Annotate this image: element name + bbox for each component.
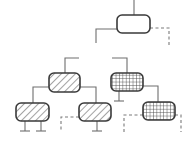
node-left-left [16,103,49,121]
edge-left-leftright [80,87,96,103]
null-link-leftright-left [61,117,79,132]
node-left-right [79,103,111,121]
edge-right-rightright [143,86,158,102]
node-left [49,73,80,92]
node-root [117,15,150,33]
null-link-rightright-right [175,115,181,132]
node-right [111,73,143,91]
terminal-leftleft-2 [36,121,46,131]
edge-root-right [112,58,127,73]
terminal-leftleft-1 [20,121,30,131]
null-link-root-right [150,28,169,45]
tree-diagram [0,0,194,144]
terminal-right [114,91,124,101]
terminal-leftright [92,121,102,131]
node-right-right [143,102,175,120]
edge-root-left [96,29,117,43]
null-link-rightright-left [124,115,143,132]
edge-root-left-continued [65,58,79,73]
edge-left-leftleft [33,87,49,103]
